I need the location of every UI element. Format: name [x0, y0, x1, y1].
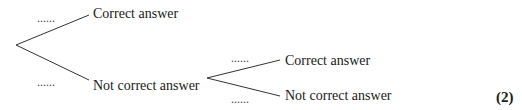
tree-branches — [0, 0, 522, 110]
marks-label: (2) — [496, 90, 514, 105]
outcome-label-1-correct: Correct answer — [93, 7, 178, 21]
tree-diagram: ...... Correct answer ...... Not correct… — [0, 0, 522, 110]
outcome-label-1-not-correct: Not correct answer — [93, 79, 200, 93]
outcome-label-2-not-correct: Not correct answer — [285, 89, 392, 103]
outcome-label-2-correct: Correct answer — [285, 54, 370, 68]
blank-probability-2-not-correct[interactable]: ...... — [231, 93, 249, 105]
blank-probability-2-correct[interactable]: ...... — [231, 52, 249, 64]
blank-probability-1-not-correct[interactable]: ...... — [37, 76, 55, 88]
blank-probability-1-correct[interactable]: ...... — [37, 12, 55, 24]
